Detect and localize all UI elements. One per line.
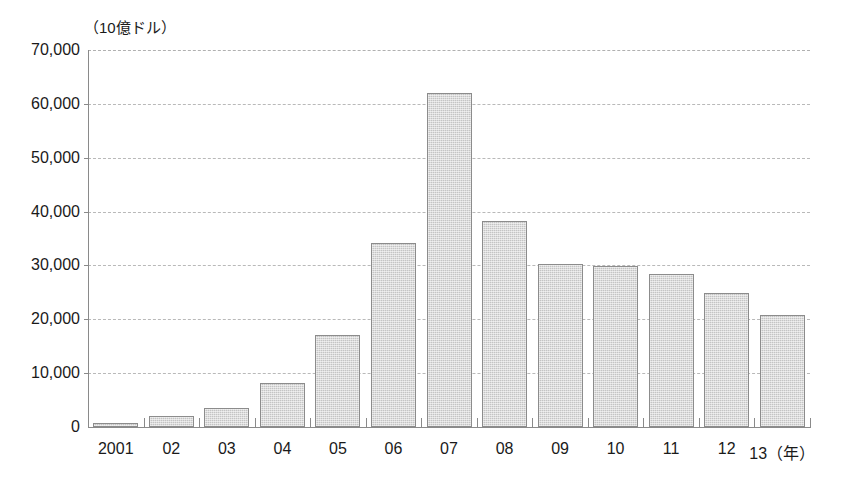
x-axis-tick — [366, 418, 367, 427]
x-tick-label: 09 — [551, 440, 569, 458]
y-axis-tick — [84, 373, 89, 374]
bar-2001 — [93, 423, 138, 427]
bar-03 — [204, 408, 249, 427]
y-tick-label: 70,000 — [2, 41, 80, 59]
y-tick-label: 30,000 — [2, 256, 80, 274]
x-tick-label: 05 — [329, 440, 347, 458]
bar-13 — [760, 315, 805, 427]
y-axis-tick — [84, 265, 89, 266]
plot-right-edge-tick — [810, 418, 811, 428]
x-tick-label: 10 — [607, 440, 625, 458]
bar-02 — [149, 416, 194, 427]
x-tick-label: 2001 — [98, 440, 134, 458]
y-axis-tick — [84, 319, 89, 320]
x-axis-tick — [699, 418, 700, 427]
x-axis-tick — [310, 418, 311, 427]
bar-11 — [649, 274, 694, 427]
x-axis-tick — [477, 418, 478, 427]
bar-04 — [260, 383, 305, 427]
bar-10 — [593, 266, 638, 427]
x-tick-label: 03 — [218, 440, 236, 458]
x-tick-label: 13（年） — [749, 440, 815, 464]
x-axis-tick — [144, 418, 145, 427]
x-axis-tick — [421, 418, 422, 427]
bar-08 — [482, 221, 527, 427]
x-axis-tick — [199, 418, 200, 427]
bar-chart: （10億ドル） 70,00060,00050,00040,00030,00020… — [0, 0, 845, 490]
x-tick-label: 07 — [440, 440, 458, 458]
x-tick-label: 08 — [496, 440, 514, 458]
bar-12 — [704, 293, 749, 427]
y-tick-label: 40,000 — [2, 203, 80, 221]
y-tick-label: 50,000 — [2, 149, 80, 167]
x-axis-tick — [643, 418, 644, 427]
x-tick-label: 02 — [162, 440, 180, 458]
x-tick-label: 06 — [385, 440, 403, 458]
x-axis-line — [88, 427, 811, 428]
x-axis-tick — [588, 418, 589, 427]
x-tick-label: 04 — [273, 440, 291, 458]
x-tick-label: 11 — [663, 440, 680, 458]
x-axis-tick — [532, 418, 533, 427]
y-tick-label: 60,000 — [2, 95, 80, 113]
x-axis-tick — [255, 418, 256, 427]
y-axis-tick — [84, 104, 89, 105]
y-tick-label: 0 — [2, 418, 80, 436]
bar-06 — [371, 243, 416, 427]
bar-05 — [315, 335, 360, 427]
y-axis-tick — [84, 212, 89, 213]
x-tick-label: 12 — [718, 440, 736, 458]
bar-09 — [538, 264, 583, 427]
y-axis-unit-label: （10億ドル） — [84, 16, 176, 37]
y-tick-label: 10,000 — [2, 364, 80, 382]
y-tick-label: 20,000 — [2, 310, 80, 328]
bar-07 — [427, 93, 472, 427]
y-axis-tick — [84, 158, 89, 159]
y-axis-labels: 70,00060,00050,00040,00030,00020,00010,0… — [0, 50, 80, 427]
x-axis-labels: 2001020304050607080910111213（年） — [88, 440, 810, 468]
x-axis-tick — [754, 418, 755, 427]
bars-layer — [88, 50, 810, 427]
